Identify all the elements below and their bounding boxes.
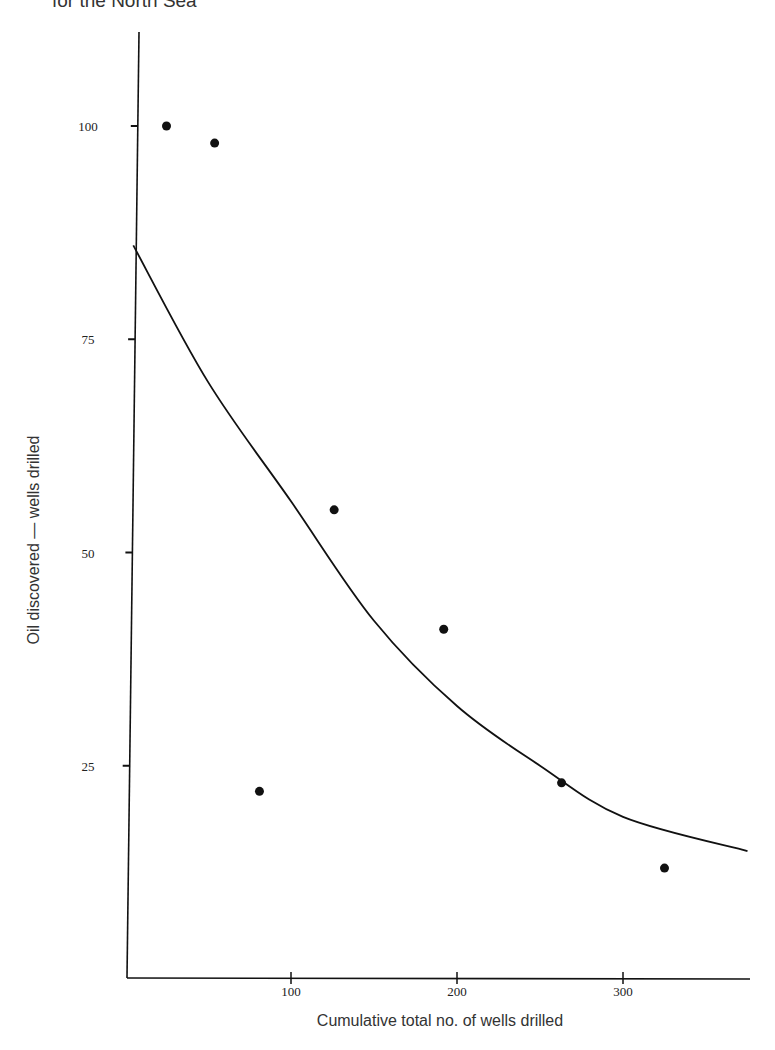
y-axis-label: Oil discovered — wells drilled — [25, 436, 42, 645]
x-tick-label: 200 — [447, 984, 467, 999]
x-ticks: 100200300 — [281, 972, 633, 999]
data-point — [439, 625, 448, 634]
data-point — [255, 787, 264, 796]
x-tick-label: 300 — [613, 984, 633, 999]
y-tick-label: 75 — [82, 332, 95, 347]
x-axis — [127, 978, 750, 979]
data-point — [210, 139, 219, 148]
y-axis — [127, 32, 139, 978]
data-point — [557, 778, 566, 787]
y-tick-label: 100 — [78, 119, 98, 134]
x-axis-label: Cumulative total no. of wells drilled — [317, 1012, 563, 1029]
x-tick-label: 100 — [281, 984, 301, 999]
y-tick-label: 50 — [82, 546, 95, 561]
fitted-curve — [133, 245, 747, 851]
data-points — [162, 122, 669, 873]
scatter-chart: 255075100 100200300 Cumulative total no.… — [0, 0, 775, 1050]
y-tick-label: 25 — [82, 759, 95, 774]
data-point — [660, 864, 669, 873]
data-point — [162, 122, 171, 131]
y-ticks: 255075100 — [78, 119, 138, 774]
data-point — [330, 505, 339, 514]
